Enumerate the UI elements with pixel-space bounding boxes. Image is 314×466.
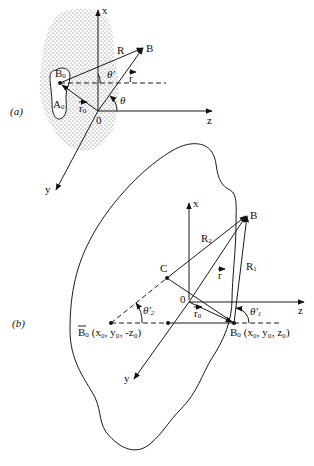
origin-label-b: 0 <box>180 293 186 305</box>
angle-theta1-prime-label: θ′1 <box>250 305 261 318</box>
x-axis-label-a: x <box>102 4 108 16</box>
point-B0-tilde <box>109 321 113 325</box>
angle-theta2-prime-label: θ′2 <box>143 304 155 317</box>
y-axis-label-b: y <box>124 372 130 384</box>
panel-b-label: (b) <box>12 317 25 330</box>
body-outline-b <box>70 144 236 450</box>
vector-r0-label-b: r0 <box>194 307 202 320</box>
vector-R-label-a: R <box>117 44 125 56</box>
vector-R1-label: R1 <box>246 260 257 273</box>
panel-a: x z y 0 (a) B B0 A0 R r r0 θ θ′ <box>10 4 212 195</box>
point-B-label-b: B <box>250 209 257 221</box>
point-midpoint <box>166 321 170 325</box>
angle-theta-prime-label: θ′ <box>107 68 115 80</box>
point-C <box>165 276 169 280</box>
angle-theta1-prime-arc <box>236 308 249 323</box>
point-B0-label-b: B0(x₀, y₀, z₀) <box>230 326 290 339</box>
diagram-canvas: x z y 0 (a) B B0 A0 R r r0 θ θ′ <box>0 0 314 466</box>
point-C-label: C <box>160 262 167 274</box>
vector-r-b <box>189 216 246 302</box>
vector-r-label-b: r <box>218 269 222 281</box>
angle-theta-label: θ <box>120 94 126 106</box>
vector-r-label-a: r <box>129 72 133 84</box>
z-axis-label-b: z <box>298 304 303 316</box>
point-B0-a <box>58 81 62 85</box>
point-B0-b <box>232 321 236 325</box>
point-B-label-a: B <box>146 42 153 54</box>
origin-label-a: 0 <box>96 114 102 126</box>
dashed-image-to-C <box>111 278 167 323</box>
y-axis-label-a: y <box>45 183 51 195</box>
vector-R2-label: R2 <box>201 232 212 245</box>
panel-a-label: (a) <box>10 105 23 118</box>
point-B0-tilde-label: B0(x₀, y₀, -z₀) <box>78 326 142 339</box>
angle-theta2-prime-arc <box>136 303 142 323</box>
z-axis-label-a: z <box>207 114 212 126</box>
x-axis-label-b: x <box>193 197 199 209</box>
